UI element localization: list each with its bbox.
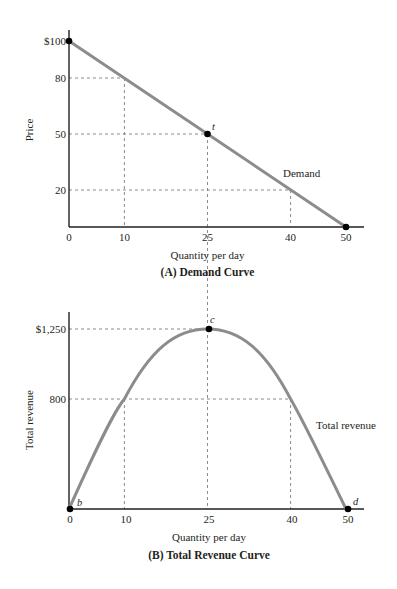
x-tick-25: 25	[204, 513, 216, 525]
x-tick-40: 40	[285, 231, 297, 243]
point-quantity-intercept	[343, 224, 350, 231]
y-axis-label: Total revenue	[23, 390, 35, 450]
total-revenue-curve-label: Total revenue	[316, 419, 376, 431]
x-tick-0: 0	[67, 513, 73, 525]
point-c-label: c	[210, 314, 215, 325]
point-b-label: b	[77, 497, 82, 508]
point-c	[206, 326, 213, 333]
figure: t $100 80 50 20 0 10 25 40 50 Price Quan…	[0, 0, 397, 589]
chart-caption: (B) Total Revenue Curve	[148, 549, 270, 562]
point-t-label: t	[212, 121, 216, 132]
guide-lines	[69, 329, 291, 509]
total-revenue-chart: b c d $1,250 800 0 10 25 40 50 Total rev…	[23, 312, 376, 562]
y-tick-20: 20	[55, 184, 67, 196]
point-price-intercept	[66, 38, 73, 45]
y-tick-800: 800	[50, 393, 67, 405]
y-axis-label: Price	[23, 119, 35, 142]
x-tick-25: 25	[202, 231, 214, 243]
x-tick-10: 10	[119, 231, 131, 243]
demand-chart: t $100 80 50 20 0 10 25 40 50 Price Quan…	[23, 30, 364, 329]
point-b	[67, 506, 74, 513]
y-tick-100: $100	[44, 35, 67, 47]
chart-caption: (A) Demand Curve	[161, 266, 255, 279]
x-tick-40: 40	[287, 513, 299, 525]
x-axis-label: Quantity per day	[172, 531, 246, 543]
point-d-label: d	[353, 496, 359, 507]
x-tick-50: 50	[343, 513, 355, 525]
x-axis-label: Quantity per day	[171, 249, 245, 261]
x-tick-0: 0	[66, 231, 72, 243]
x-tick-50: 50	[341, 231, 353, 243]
demand-curve-label: Demand	[283, 167, 321, 179]
y-tick-80: 80	[55, 72, 67, 84]
y-tick-50: 50	[55, 128, 67, 140]
x-tick-10: 10	[121, 513, 133, 525]
point-d	[345, 506, 352, 513]
point-t	[204, 131, 211, 138]
y-tick-1250: $1,250	[36, 323, 67, 335]
